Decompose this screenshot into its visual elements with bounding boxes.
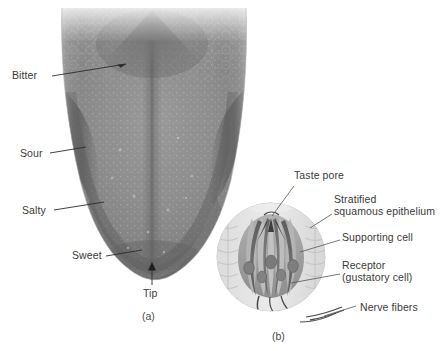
label-stratified-line-2: squamous epithelium	[334, 206, 435, 218]
taste-zone-sour-right	[210, 86, 249, 206]
label-receptor-line-1: Receptor	[342, 260, 412, 272]
stratified-squamous-epithelium-graphic	[217, 192, 325, 312]
leader-receptor-gustatory-cell	[291, 274, 340, 283]
taste-pore-opening	[262, 212, 281, 217]
supporting-cells	[246, 214, 296, 298]
leader-sweet	[106, 250, 142, 256]
label-taste-pore: Taste pore	[294, 170, 344, 182]
label-tip: Tip	[143, 288, 158, 300]
label-stratified-squamous-epithelium: Stratified squamous epithelium	[334, 194, 435, 217]
taste-bud-circle-field	[217, 203, 325, 311]
taste-zone-sweet	[104, 238, 200, 282]
leader-supporting-cell	[300, 240, 340, 252]
taste-pore-microvilli	[250, 218, 293, 252]
caption-panel-b: (b)	[272, 330, 285, 342]
label-nerve-fibers-line-1: Nerve fibers	[360, 301, 418, 313]
label-taste-pore-line-1: Taste pore	[294, 169, 344, 181]
leader-stratified-squamous-epithelium	[310, 214, 332, 228]
panel-a-tongue-illustration	[0, 0, 448, 351]
label-stratified-line-1: Stratified	[334, 194, 435, 206]
label-nerve-fibers: Nerve fibers	[360, 302, 418, 314]
label-salty: Salty	[22, 205, 46, 217]
leader-taste-pore	[272, 186, 294, 216]
nerve-fibers-graphic	[257, 296, 322, 324]
leader-nerve-fibers	[324, 306, 356, 316]
receptor-gustatory-cells	[250, 218, 293, 296]
label-receptor-gustatory-cell: Receptor (gustatory cell)	[342, 260, 412, 283]
leader-salty	[54, 202, 104, 210]
nerve-fibers-exit	[300, 307, 344, 322]
label-sweet: Sweet	[72, 250, 102, 262]
caption-panel-a: (a)	[142, 310, 155, 322]
leader-bitter	[52, 64, 126, 76]
label-supporting-cell-line-1: Supporting cell	[342, 231, 413, 243]
taste-bud-body	[238, 214, 304, 298]
leader-sour	[50, 147, 86, 153]
taste-bud-interior	[217, 192, 325, 324]
tongue-outline	[62, 8, 247, 280]
taste-zone-sour-left	[60, 86, 99, 206]
panel-b-taste-bud-illustration	[0, 0, 448, 351]
cell-nuclei	[244, 255, 298, 283]
panel-a-leader-lines	[50, 64, 156, 285]
leader-bitter-arrowhead	[118, 64, 127, 68]
taste-zone-salty-right	[156, 196, 222, 271]
figure-container: Bitter Sour Salty Sweet Tip (a)	[0, 0, 448, 351]
label-receptor-line-2: (gustatory cell)	[342, 272, 412, 284]
label-supporting-cell: Supporting cell	[342, 232, 413, 244]
tongue-graphic	[50, 0, 260, 290]
label-sour: Sour	[20, 148, 43, 160]
label-bitter: Bitter	[12, 70, 37, 82]
leader-tip-arrowhead	[148, 262, 156, 271]
